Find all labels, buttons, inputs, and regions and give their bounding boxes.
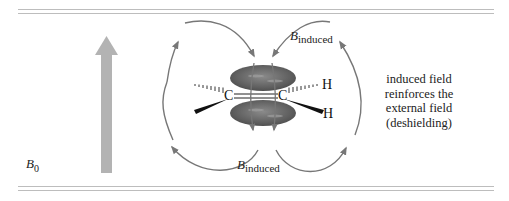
atom-hydrogen-top: H bbox=[322, 77, 332, 93]
atom-hydrogen-bottom: H bbox=[323, 106, 333, 122]
annotation-line-2: reinforces the bbox=[361, 87, 477, 102]
atom-carbon-left: C bbox=[224, 88, 233, 104]
external-field-label: B0 bbox=[26, 156, 39, 174]
external-field-arrow bbox=[95, 36, 118, 173]
hashed-bond-right bbox=[289, 84, 317, 93]
deshielding-annotation: induced field reinforces the external fi… bbox=[361, 72, 477, 130]
induced-field-label-bottom: Binduced bbox=[237, 157, 280, 174]
annotation-line-3: external field bbox=[361, 101, 477, 116]
left-field-loop bbox=[163, 21, 258, 170]
atom-carbon-right: C bbox=[278, 88, 287, 104]
hashed-bond-left bbox=[195, 84, 223, 93]
double-bond bbox=[234, 94, 278, 98]
induced-field-label-top: Binduced bbox=[290, 28, 333, 45]
annotation-line-1: induced field bbox=[361, 72, 477, 87]
annotation-line-4: (deshielding) bbox=[361, 116, 477, 131]
wedge-bond-left bbox=[194, 99, 228, 114]
